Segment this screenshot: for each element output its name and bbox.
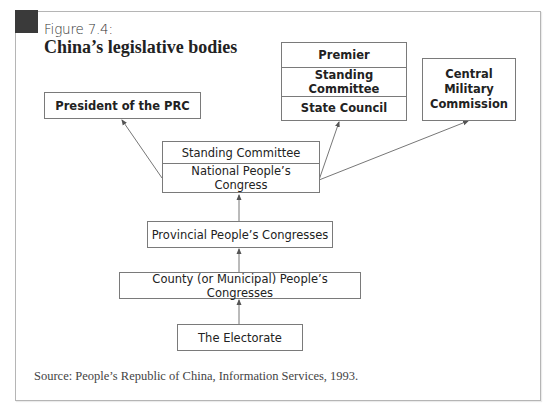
- node-electorate: The Electorate: [177, 324, 303, 351]
- figure-source: Source: People’s Republic of China, Info…: [34, 369, 358, 384]
- node-npc-stack: Standing Committee National People’s Con…: [162, 141, 320, 193]
- arrow-npc-to-cmc: [319, 121, 468, 180]
- node-state-council-standing-committee: Standing Committee: [282, 67, 406, 96]
- node-state-council-stack: Premier Standing Committee State Council: [281, 42, 407, 121]
- node-provincial-label: Provincial People’s Congresses: [152, 228, 329, 242]
- node-electorate-label: The Electorate: [198, 331, 282, 345]
- node-premier: Premier: [282, 43, 406, 67]
- node-state-council: State Council: [282, 96, 406, 121]
- node-county-label: County (or Municipal) People’s Congresse…: [120, 272, 360, 300]
- node-national-peoples-congress: National People’s Congress: [163, 163, 319, 192]
- node-president: President of the PRC: [44, 92, 201, 119]
- cmc-line-3: Commission: [430, 97, 508, 112]
- node-provincial-congresses: Provincial People’s Congresses: [147, 221, 333, 248]
- cmc-line-2: Military: [444, 82, 494, 97]
- node-county-congresses: County (or Municipal) People’s Congresse…: [119, 272, 361, 299]
- node-president-label: President of the PRC: [55, 99, 190, 113]
- cmc-line-1: Central: [445, 67, 492, 82]
- arrow-npc-to-president: [122, 120, 162, 178]
- arrow-npc-to-state-council: [319, 122, 339, 180]
- node-npc-standing-committee: Standing Committee: [163, 142, 319, 163]
- node-central-military-commission: Central Military Commission: [422, 58, 516, 121]
